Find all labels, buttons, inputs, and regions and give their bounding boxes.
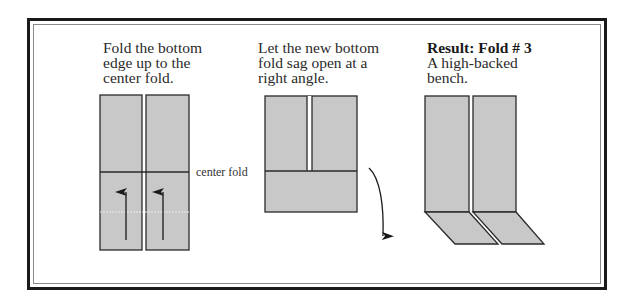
step-3-figure bbox=[425, 96, 544, 244]
step-2-figure bbox=[265, 96, 383, 236]
step-1-figure bbox=[100, 95, 189, 250]
fold-diagram-art bbox=[0, 0, 629, 305]
curved-down-arrow-icon bbox=[369, 168, 383, 236]
bench-back-right bbox=[473, 96, 516, 212]
bench-back-left bbox=[425, 96, 469, 212]
